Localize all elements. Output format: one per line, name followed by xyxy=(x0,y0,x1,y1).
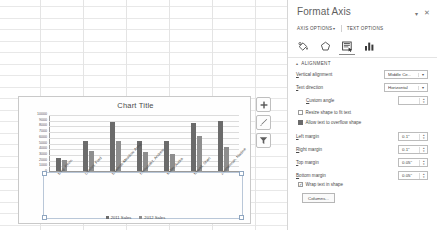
chart-object[interactable]: Chart Title 1000090008000700060005000400… xyxy=(18,96,251,224)
legend-label: 2011 Sales xyxy=(111,215,132,220)
y-axis-tick-label: 4000 xyxy=(39,147,47,151)
spinner-arrows-icon[interactable]: ▴▾ xyxy=(419,147,427,153)
grid-row-line xyxy=(0,87,287,88)
top-margin-input[interactable]: 0.05"▴▾ xyxy=(398,158,428,167)
gridline xyxy=(49,132,239,133)
vertical-alignment-input[interactable]: Middle Ce...▾ xyxy=(384,70,428,79)
y-axis-tick-label: 3000 xyxy=(39,153,47,157)
format-axis-pane: Format Axis ▾ ✕ AXIS OPTIONS ▾ TEXT OPTI… xyxy=(287,0,437,230)
axis-options-chart-icon[interactable] xyxy=(362,39,377,54)
spinner-arrows-icon[interactable]: ▴▾ xyxy=(419,98,427,104)
gridline xyxy=(49,121,239,122)
grid-row-line xyxy=(0,29,287,30)
wrap-text-in-shape[interactable]: ✓Wrap text in shape xyxy=(298,182,343,187)
grid-row-line xyxy=(0,64,287,65)
y-axis-tick-label: 2000 xyxy=(39,159,47,163)
gridline xyxy=(49,126,239,127)
resize-shape-to-fit-text-label: Resize shape to fit text xyxy=(306,110,352,115)
y-axis-tick-label: 1000 xyxy=(39,165,47,169)
gridline xyxy=(49,115,239,116)
collapse-arrow-icon[interactable]: ▴ xyxy=(296,62,298,66)
y-axis-tick-label: 6000 xyxy=(39,136,47,140)
bar[interactable] xyxy=(218,121,223,171)
y-axis-tick-label: 9000 xyxy=(39,119,47,123)
grid-row-line xyxy=(0,225,287,226)
text-box-icon[interactable] xyxy=(340,39,355,54)
tab-axis-options-label: AXIS OPTIONS xyxy=(297,26,332,31)
checkbox-icon[interactable] xyxy=(298,110,303,115)
fill-line-icon[interactable] xyxy=(296,39,311,54)
resize-handle-tl[interactable] xyxy=(42,171,47,176)
top-margin-value: 0.05" xyxy=(402,160,412,165)
legend-label: 2012 Sales xyxy=(144,215,165,220)
text-direction-input[interactable]: Horizontal▾ xyxy=(384,83,428,92)
chart-legend[interactable]: 2011 Sales2012 Sales xyxy=(19,215,252,220)
tab-text-options[interactable]: TEXT OPTIONS xyxy=(347,26,384,31)
close-icon[interactable]: ✕ xyxy=(424,9,430,17)
legend-swatch xyxy=(106,216,109,219)
field-row-top-margin: Top margin0.05"▴▾ xyxy=(296,157,430,168)
pane-header: Format Axis ▾ ✕ xyxy=(288,4,437,22)
top-margin-label: Top margin xyxy=(296,160,319,165)
grid-row-line xyxy=(0,52,287,53)
bar[interactable] xyxy=(191,123,196,171)
grid-row-line xyxy=(0,18,287,19)
y-axis-tick-label: 8000 xyxy=(39,125,47,129)
chevron-down-icon[interactable]: ▾ xyxy=(418,86,427,90)
field-row-custom-angle: Custom angle▴▾ xyxy=(296,95,430,106)
tab-axis-options[interactable]: AXIS OPTIONS ▾ xyxy=(297,26,336,31)
legend-entry[interactable]: 2012 Sales xyxy=(139,215,165,220)
allow-text-to-overflow-shape[interactable]: Allow text to overflow shape xyxy=(298,120,361,125)
chart-quick-buttons xyxy=(256,97,270,151)
left-margin-label: Left margin xyxy=(296,134,319,139)
text-direction-value: Horizontal xyxy=(388,85,408,90)
chart-elements-button[interactable] xyxy=(256,97,271,112)
chart-filters-button[interactable] xyxy=(256,133,271,148)
chart-title[interactable]: Chart Title xyxy=(19,101,252,110)
grid-row-line xyxy=(0,75,287,76)
pane-tabs: AXIS OPTIONS ▾ TEXT OPTIONS xyxy=(297,23,429,33)
spinner-arrows-icon[interactable]: ▴▾ xyxy=(419,160,427,166)
wrap-text-in-shape-label: Wrap text in shape xyxy=(306,182,343,187)
axis-selection-box[interactable] xyxy=(43,172,243,219)
chart-styles-button[interactable] xyxy=(256,115,271,130)
bar[interactable] xyxy=(110,122,115,171)
tab-divider xyxy=(341,25,342,32)
field-row-left-margin: Left margin0.1"▴▾ xyxy=(296,131,430,142)
left-margin-input[interactable]: 0.1"▴▾ xyxy=(398,132,428,141)
section-alignment-header[interactable]: ▴ ALIGNMENT xyxy=(296,61,331,66)
right-margin-input[interactable]: 0.1"▴▾ xyxy=(398,145,428,154)
resize-shape-to-fit-text[interactable]: Resize shape to fit text xyxy=(298,110,351,115)
checkbox-icon[interactable]: ✓ xyxy=(298,182,303,187)
grid-row-line xyxy=(0,6,287,7)
right-margin-label: Right margin xyxy=(296,147,322,152)
field-row-vertical-alignment: Vertical alignmentMiddle Ce...▾ xyxy=(296,69,430,80)
spinner-arrows-icon[interactable]: ▴▾ xyxy=(419,173,427,179)
pane-title: Format Axis xyxy=(297,6,351,17)
field-row-right-margin: Right margin0.1"▴▾ xyxy=(296,144,430,155)
resize-handle-tr[interactable] xyxy=(239,171,244,176)
chevron-down-icon[interactable]: ▾ xyxy=(415,10,418,17)
chevron-down-icon[interactable]: ▾ xyxy=(333,26,335,31)
field-row-bottom-margin: Bottom margin0.05"▴▾ xyxy=(296,170,430,181)
grid-row-line xyxy=(0,41,287,42)
legend-entry[interactable]: 2011 Sales xyxy=(106,215,132,220)
chevron-down-icon[interactable]: ▾ xyxy=(418,73,427,77)
bottom-margin-value: 0.05" xyxy=(402,173,412,178)
bottom-margin-input[interactable]: 0.05"▴▾ xyxy=(398,171,428,180)
vertical-alignment-label: Vertical alignment xyxy=(296,72,332,77)
effects-pentagon-icon[interactable] xyxy=(318,39,333,54)
pane-divider xyxy=(288,57,437,58)
custom-angle-input[interactable]: ▴▾ xyxy=(398,96,428,105)
bottom-margin-label: Bottom margin xyxy=(296,173,326,178)
columns-button[interactable]: Columns... xyxy=(302,193,335,203)
text-direction-label: Text direction xyxy=(296,85,323,90)
section-alignment-label: ALIGNMENT xyxy=(301,61,331,66)
vertical-alignment-value: Middle Ce... xyxy=(388,72,411,77)
bar[interactable] xyxy=(164,141,169,171)
radio-icon[interactable] xyxy=(298,120,303,125)
left-margin-value: 0.1" xyxy=(402,134,410,139)
spinner-arrows-icon[interactable]: ▴▾ xyxy=(419,134,427,140)
y-axis-tick-label: 5000 xyxy=(39,142,47,146)
chart-plot-area[interactable]: 1000090008000700060005000400030002000100… xyxy=(49,115,239,172)
